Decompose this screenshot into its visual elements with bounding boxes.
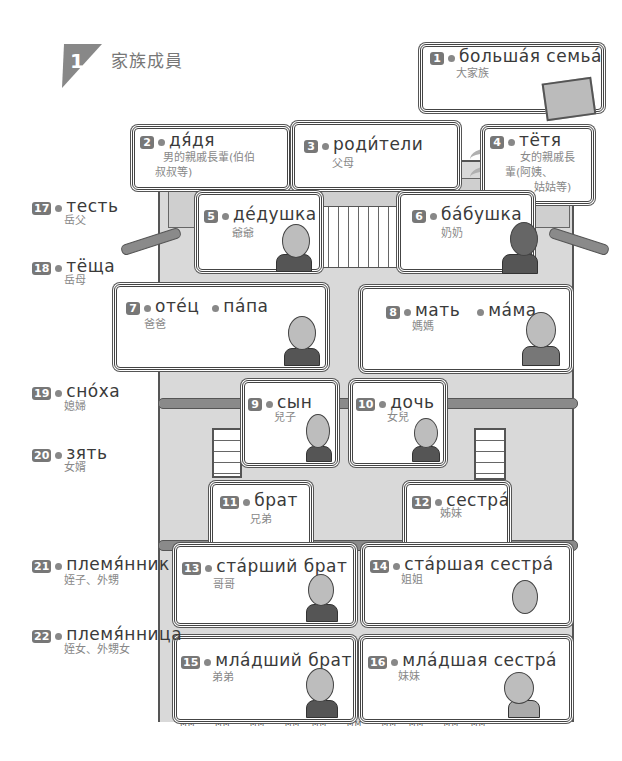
bullet-dot <box>448 55 455 62</box>
entry-russian: тётя <box>519 130 562 150</box>
entry-number: 11 <box>220 496 239 509</box>
entry-chinese: 爸爸 <box>144 318 166 332</box>
entry-chinese: 爺爺 <box>232 227 254 241</box>
entry-8: 8мать мáма <box>386 300 537 320</box>
bullet-dot <box>322 143 329 150</box>
entry-chinese: 媳婦 <box>64 400 86 414</box>
entry-chinese: 兒子 <box>274 411 296 425</box>
father-face-icon <box>288 316 316 350</box>
bullet-dot <box>55 390 62 397</box>
entry-russian: млáдшая сестрá <box>402 650 557 670</box>
younger-brother-face-icon <box>306 668 334 702</box>
entry-number: 20 <box>32 449 51 462</box>
entry-russian: дéдушка <box>233 204 317 224</box>
entry-russian: зять <box>66 443 107 463</box>
entry-chinese: 父母 <box>332 157 354 171</box>
entry-chinese: 姐姐 <box>401 573 423 587</box>
older-sister-face-icon <box>512 580 538 614</box>
entry-chinese: 女兒 <box>387 411 409 425</box>
entry-number: 13 <box>182 562 201 575</box>
entry-chinese: 妹妹 <box>398 670 420 684</box>
bullet-dot <box>266 401 273 408</box>
bullet-dot <box>379 401 386 408</box>
entry-russian: племя́нница <box>66 624 182 644</box>
entry-13: 13стáрший брат <box>182 556 347 576</box>
entry-number: 22 <box>32 630 51 643</box>
entry-number: 16 <box>368 656 387 669</box>
card-younger-sister <box>360 636 572 722</box>
bullet-dot <box>55 452 62 459</box>
entry-11: 11брат <box>220 490 298 510</box>
bullet-dot <box>212 305 219 312</box>
grandmother-face-icon <box>510 222 538 256</box>
younger-brother-figure <box>306 700 338 718</box>
entry-number: 1 <box>430 52 444 65</box>
entry-chinese: 岳父 <box>64 214 86 228</box>
daughter-face-icon <box>414 418 438 448</box>
bullet-dot <box>158 139 165 146</box>
entry-chinese: 媽媽 <box>412 320 434 334</box>
entry-russian: брат <box>254 490 298 510</box>
entry-russian: тесть <box>66 196 118 216</box>
bullet-dot <box>393 563 400 570</box>
entry-russian: сын <box>277 392 312 412</box>
bullet-dot <box>55 633 62 640</box>
entry-20: 20зять <box>32 443 108 463</box>
entry-number: 7 <box>126 302 140 315</box>
entry-number: 6 <box>412 210 426 223</box>
bullet-dot <box>205 565 212 572</box>
entry-russian: отéц <box>155 296 199 316</box>
entry-russian: большáя семьá <box>459 46 602 66</box>
entry-russian: дя́дя <box>169 130 215 150</box>
entry-russian: млáдший брат <box>215 650 352 670</box>
mother-figure <box>522 346 560 366</box>
entry-chinese-line: 叔叔等) <box>155 166 192 180</box>
grandmother-figure <box>502 254 538 274</box>
bullet-dot <box>391 659 398 666</box>
son-figure <box>306 446 332 462</box>
daughter-figure <box>412 446 440 462</box>
entry-chinese: 大家族 <box>456 67 489 81</box>
entry-russian: племя́нник <box>66 554 170 574</box>
older-brother-figure <box>306 604 338 622</box>
entry-chinese: 女婿 <box>64 461 86 475</box>
entry-number: 4 <box>490 136 504 149</box>
entry-chinese: 弟弟 <box>212 671 234 685</box>
entry-russian: стáрший брат <box>216 556 347 576</box>
entry-number: 15 <box>181 656 200 669</box>
entry-10: 10дочь <box>356 392 435 412</box>
section-title: 家族成員 <box>111 47 183 72</box>
entry-number: 9 <box>248 398 262 411</box>
entry-chinese-line: 輩(阿姨、 <box>505 166 553 180</box>
entry-2: 2дя́дя <box>140 130 215 150</box>
entry-russian: стáршая сестрá <box>404 554 553 574</box>
entry-19: 19снóха <box>32 381 120 401</box>
entry-chinese: 哥哥 <box>213 578 235 592</box>
card-parents <box>292 122 460 190</box>
son-face-icon <box>306 414 330 448</box>
entry-16: 16млáдшая сестрá <box>368 650 557 670</box>
entry-russian: тёща <box>66 256 115 276</box>
bullet-dot <box>477 309 484 316</box>
entry-7: 7отéц пáпа <box>126 296 268 316</box>
entry-chinese: 奶奶 <box>441 227 463 241</box>
entry-15: 15млáдший брат <box>181 650 352 670</box>
bullet-dot <box>55 563 62 570</box>
entry-9: 9сын <box>248 392 312 412</box>
entry-18: 18тёща <box>32 256 115 276</box>
entry-number: 8 <box>386 306 400 319</box>
entry-3: 3роди́тели <box>304 134 423 154</box>
entry-number: 3 <box>304 140 318 153</box>
window <box>474 428 506 480</box>
entry-russian: мать <box>415 300 460 320</box>
entry-number: 17 <box>32 202 51 215</box>
entry-14: 14стáршая сестрá <box>370 554 554 574</box>
entry-chinese: 姊妹 <box>440 507 462 521</box>
entry-russian: бáбушка <box>441 204 522 224</box>
entry-chinese-line: 姑姑等) <box>534 181 571 195</box>
entry-number: 12 <box>412 496 431 509</box>
entry-22: 22племя́нница <box>32 624 182 644</box>
section-number: 1 <box>70 49 84 73</box>
younger-sister-face-icon <box>504 672 534 704</box>
entry-number: 5 <box>204 210 218 223</box>
